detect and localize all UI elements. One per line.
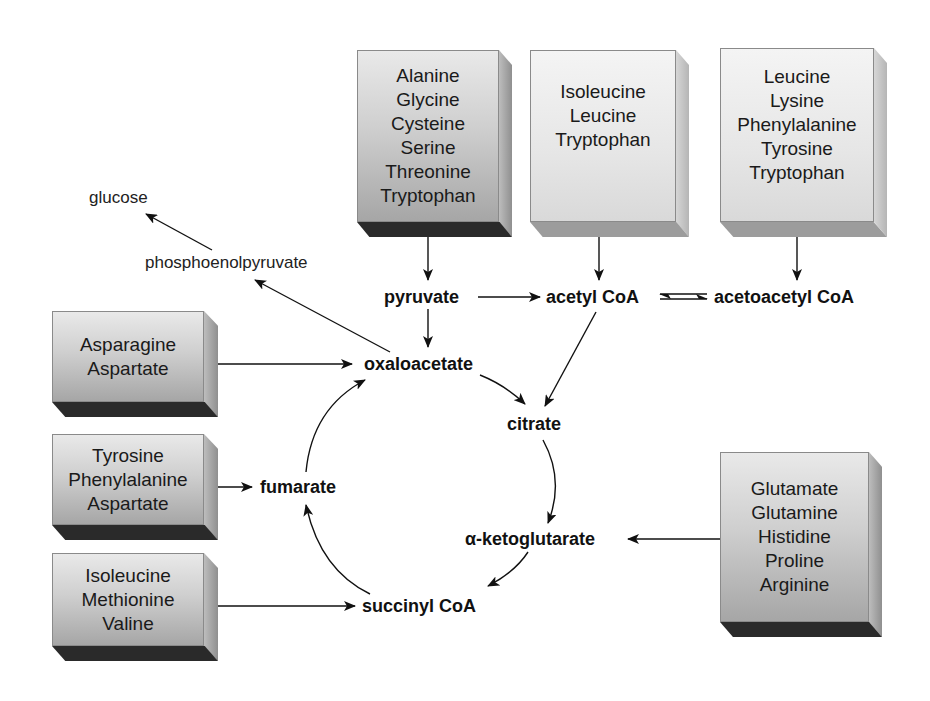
amino-acid: Leucine [570, 104, 637, 128]
arrow-ketoglutarate-to-succinylcoa [488, 552, 528, 586]
amino-acid: Histidine [758, 525, 831, 549]
amino-acid: Lysine [770, 89, 824, 113]
amino-acid: Cysteine [391, 112, 465, 136]
amino-acid: Glutamine [751, 501, 838, 525]
amino-acid: Aspartate [87, 492, 168, 516]
metabolite-succinyl-coa: succinyl CoA [362, 596, 476, 617]
amino-acid: Serine [401, 136, 456, 160]
box-side [204, 311, 218, 417]
metabolite-oxaloacetate: oxaloacetate [364, 354, 473, 375]
box-bottom [52, 402, 218, 417]
amino-acid: Phenylalanine [737, 113, 856, 137]
box-bottom [357, 222, 512, 237]
amino-acid: Valine [102, 612, 153, 636]
amino-acid-box-fumarate: Tyrosine Phenylalanine Aspartate [52, 434, 218, 540]
arrow-succinylcoa-to-fumarate [306, 505, 370, 594]
metabolic-pathway-diagram: Alanine Glycine Cysteine Serine Threonin… [0, 0, 930, 701]
amino-acid: Asparagine [80, 333, 176, 357]
box-bottom [720, 222, 887, 237]
box-bottom [720, 622, 882, 637]
amino-acid-box-acetoacetylcoa: Leucine Lysine Phenylalanine Tyrosine Tr… [720, 48, 887, 237]
metabolite-citrate: citrate [507, 414, 561, 435]
box-side [204, 553, 218, 661]
box-face: Glutamate Glutamine Histidine Proline Ar… [720, 452, 869, 622]
amino-acid: Glycine [396, 88, 459, 112]
box-face: Alanine Glycine Cysteine Serine Threonin… [357, 50, 499, 222]
metabolite-fumarate: fumarate [260, 477, 336, 498]
amino-acid: Isoleucine [560, 80, 646, 104]
box-bottom [530, 222, 689, 237]
arrow-oxaloacetate-to-pep [255, 280, 390, 352]
box-face: Isoleucine Methionine Valine [52, 553, 204, 646]
metabolite-acetoacetyl-coa: acetoacetyl CoA [714, 287, 854, 308]
amino-acid-box-succinylcoa: Isoleucine Methionine Valine [52, 553, 218, 661]
amino-acid: Tryptophan [555, 128, 650, 152]
metabolite-phosphoenolpyruvate: phosphoenolpyruvate [145, 253, 308, 273]
box-face: Asparagine Aspartate [52, 311, 204, 402]
box-face: Isoleucine Leucine Tryptophan [530, 50, 676, 222]
amino-acid-box-ketoglutarate: Glutamate Glutamine Histidine Proline Ar… [720, 452, 882, 637]
box-side [204, 434, 218, 540]
arrow-pep-to-glucose [146, 214, 212, 250]
amino-acid: Tyrosine [92, 444, 164, 468]
amino-acid: Proline [765, 549, 824, 573]
box-bottom [52, 646, 218, 661]
amino-acid: Glutamate [751, 477, 839, 501]
metabolite-alpha-ketoglutarate: α-ketoglutarate [465, 529, 595, 550]
arrow-citrate-to-ketoglutarate [543, 440, 555, 523]
amino-acid: Tryptophan [380, 184, 475, 208]
amino-acid: Threonine [385, 160, 471, 184]
box-side [499, 50, 512, 237]
box-side [874, 48, 887, 237]
box-bottom [52, 525, 218, 540]
box-face: Tyrosine Phenylalanine Aspartate [52, 434, 204, 525]
amino-acid: Tryptophan [749, 161, 844, 185]
arrow-fumarate-to-oxaloacetate [306, 380, 365, 472]
amino-acid-box-pyruvate: Alanine Glycine Cysteine Serine Threonin… [357, 50, 512, 237]
box-side [869, 452, 882, 637]
amino-acid-box-acetylcoa: Isoleucine Leucine Tryptophan [530, 50, 689, 237]
arrow-oxaloacetate-to-citrate [480, 375, 525, 404]
metabolite-acetyl-coa: acetyl CoA [546, 287, 639, 308]
box-side [676, 50, 689, 237]
amino-acid: Alanine [396, 64, 459, 88]
amino-acid: Methionine [82, 588, 175, 612]
amino-acid: Leucine [764, 65, 831, 89]
amino-acid: Tyrosine [761, 137, 833, 161]
metabolite-glucose: glucose [89, 188, 148, 208]
amino-acid: Aspartate [87, 357, 168, 381]
box-face: Leucine Lysine Phenylalanine Tyrosine Tr… [720, 48, 874, 222]
amino-acid: Phenylalanine [68, 468, 187, 492]
amino-acid: Isoleucine [85, 564, 171, 588]
metabolite-pyruvate: pyruvate [384, 287, 459, 308]
amino-acid: Arginine [760, 573, 830, 597]
amino-acid-box-oxaloacetate: Asparagine Aspartate [52, 311, 218, 417]
arrow-acetylcoa-to-citrate [545, 312, 596, 406]
